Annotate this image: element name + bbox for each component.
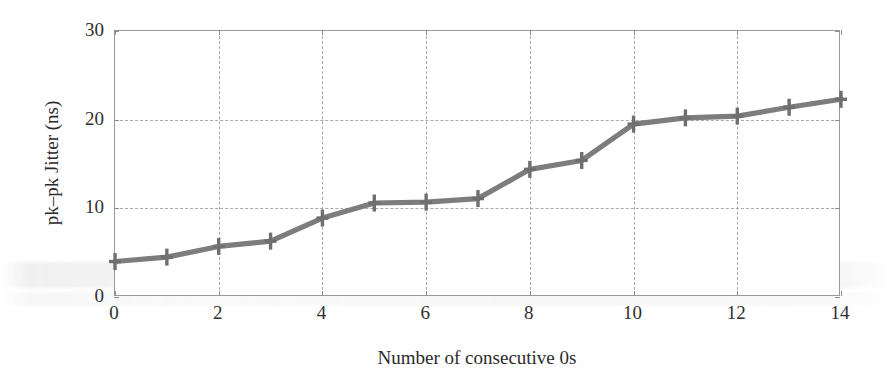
data-point-marker [835, 91, 847, 108]
data-point-marker [213, 238, 225, 255]
x-tick-label: 14 [810, 302, 870, 324]
data-point-marker [316, 210, 328, 227]
data-point-marker [109, 253, 121, 270]
x-tick-label: 12 [706, 302, 766, 324]
data-point-marker [420, 194, 432, 211]
data-point-marker [524, 161, 536, 178]
data-point-marker [368, 195, 380, 212]
chart-figure: pk–pk Jitter (ns) Number of consecutive … [0, 0, 894, 387]
series-line-pk-pk-jitter [115, 99, 841, 261]
plot-area [114, 30, 840, 296]
x-axis-title: Number of consecutive 0s [114, 347, 840, 369]
data-point-marker [472, 190, 484, 207]
x-tick-label: 0 [84, 302, 144, 324]
data-series-layer [115, 31, 841, 297]
x-tick-label: 8 [499, 302, 559, 324]
x-tick-label: 10 [603, 302, 663, 324]
x-tick-label: 2 [188, 302, 248, 324]
y-tick-label: 10 [52, 196, 104, 218]
y-axis-tick [114, 297, 119, 298]
data-point-marker [783, 99, 795, 116]
y-axis-title: pk–pk Jitter (ns) [41, 33, 63, 293]
x-axis-tick [841, 30, 842, 35]
y-tick-label: 30 [52, 19, 104, 41]
y-tick-label: 20 [52, 108, 104, 130]
x-axis-tick [841, 291, 842, 296]
y-axis-tick [835, 297, 840, 298]
series-marker-group [109, 91, 847, 270]
data-point-marker [679, 109, 691, 126]
data-point-marker [265, 233, 277, 250]
data-point-marker [731, 108, 743, 125]
x-tick-label: 4 [291, 302, 351, 324]
data-point-marker [161, 249, 173, 266]
x-tick-label: 6 [395, 302, 455, 324]
